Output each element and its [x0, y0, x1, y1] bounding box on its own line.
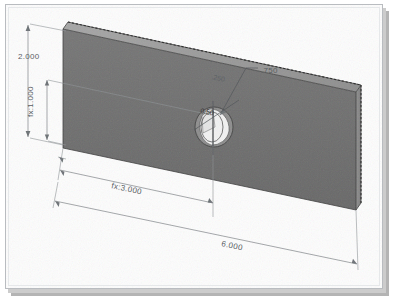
image-grain-overlay [6, 5, 382, 288]
cad-3d-viewport[interactable]: 2.000 fx:1.000 [5, 4, 383, 289]
cad-screenshot: 2.000 fx:1.000 [0, 0, 394, 300]
